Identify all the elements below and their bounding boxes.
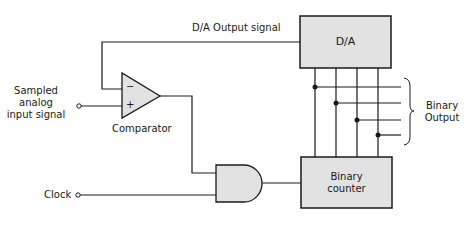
binary-output-line2: Output [418,112,466,124]
junction-dots [313,85,381,138]
binary-output-line1: Binary [418,100,466,112]
binary-counter-label: Binary counter [301,171,392,195]
output-brace [404,78,414,145]
binary-output-taps [315,87,401,135]
binary-counter-line1: Binary [301,171,392,183]
clock-terminal [76,193,80,197]
da-label: D/A [300,36,391,48]
comparator-minus-sign: − [126,81,134,93]
clock-label: Clock [44,189,71,201]
analog-input-terminal [77,104,81,108]
comparator-plus-sign: + [126,99,134,111]
binary-counter-line2: counter [301,183,392,195]
and-gate-symbol [216,165,262,202]
analog-input-label: Sampled analog input signal [0,85,72,121]
comparator-label: Comparator [112,123,172,135]
comparator-symbol [122,73,160,118]
feedback-signal-label: D/A Output signal [192,22,281,34]
bit-bus [315,68,378,157]
binary-output-label: Binary Output [418,100,466,124]
analog-input-line2: analog [0,97,72,109]
analog-input-line1: Sampled [0,85,72,97]
analog-input-line3: input signal [0,109,72,121]
